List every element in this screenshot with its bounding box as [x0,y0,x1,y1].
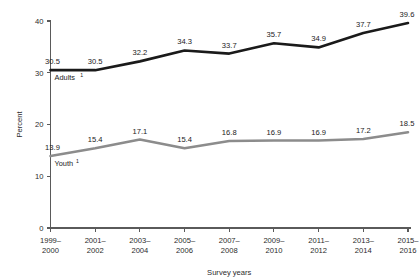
x-tick-label: 2016 [400,246,417,255]
data-label-adults-0: 30.5 [45,57,60,66]
x-tick-label: 2002 [87,246,104,255]
y-tick-label: 30 [35,69,43,78]
data-label-youth-5: 16.9 [267,128,282,137]
x-tick-label: 2006 [176,246,193,255]
data-label-youth-3: 15.4 [177,135,192,144]
data-label-youth-0: 13.9 [45,143,60,152]
x-axis-ticks: 1999–20002001–20022003–20042005–20062007… [40,228,419,255]
x-tick-label: 2001– [85,236,107,245]
data-labels-group: 30.530.532.234.333.735.734.937.739.613.9… [45,10,414,152]
data-label-adults-3: 34.3 [177,37,192,46]
line-chart: 010203040 1999–20002001–20022003–2004200… [0,0,419,280]
series-name-youth: Youth [55,159,74,168]
x-tick-label: 2000 [42,246,59,255]
x-tick-label: 2010 [265,246,282,255]
y-tick-label: 0 [39,224,43,233]
data-label-adults-8: 39.6 [400,10,415,19]
x-axis-title: Survey years [207,268,252,277]
data-label-youth-8: 18.5 [400,119,415,128]
x-tick-label: 2011– [308,236,329,245]
data-label-adults-1: 30.5 [88,57,103,66]
data-label-adults-4: 33.7 [222,41,237,50]
series-name-adults: Adults [55,73,76,82]
data-label-youth-6: 16.9 [311,128,326,137]
y-axis-title: Percent [15,111,24,138]
data-label-adults-5: 35.7 [267,30,282,39]
data-label-youth-2: 17.1 [132,127,147,136]
data-label-youth-7: 17.2 [356,126,371,135]
x-tick-label: 2003– [129,236,151,245]
x-tick-label: 2009– [263,236,285,245]
chart-container: 010203040 1999–20002001–20022003–2004200… [0,0,419,280]
data-label-adults-2: 32.2 [132,48,147,57]
x-tick-label: 2007– [219,236,241,245]
x-tick-label: 2013– [353,236,375,245]
y-tick-label: 10 [35,172,43,181]
y-axis-ticks: 010203040 [35,17,50,233]
data-label-youth-4: 16.8 [222,128,237,137]
x-tick-label: 2012 [310,246,327,255]
x-tick-label: 2015– [397,236,419,245]
series-footnote-marker-youth: 1 [76,158,79,164]
x-tick-label: 2005– [174,236,196,245]
series-footnote-marker-adults: 1 [80,72,83,78]
x-tick-label: 2014 [355,246,372,255]
data-label-youth-1: 15.4 [88,135,103,144]
y-tick-label: 20 [35,120,43,129]
data-label-adults-7: 37.7 [356,20,371,29]
y-tick-label: 40 [35,17,43,26]
x-tick-label: 2008 [221,246,238,255]
data-label-adults-6: 34.9 [311,34,326,43]
x-tick-label: 2004 [131,246,148,255]
x-tick-label: 1999– [40,236,62,245]
